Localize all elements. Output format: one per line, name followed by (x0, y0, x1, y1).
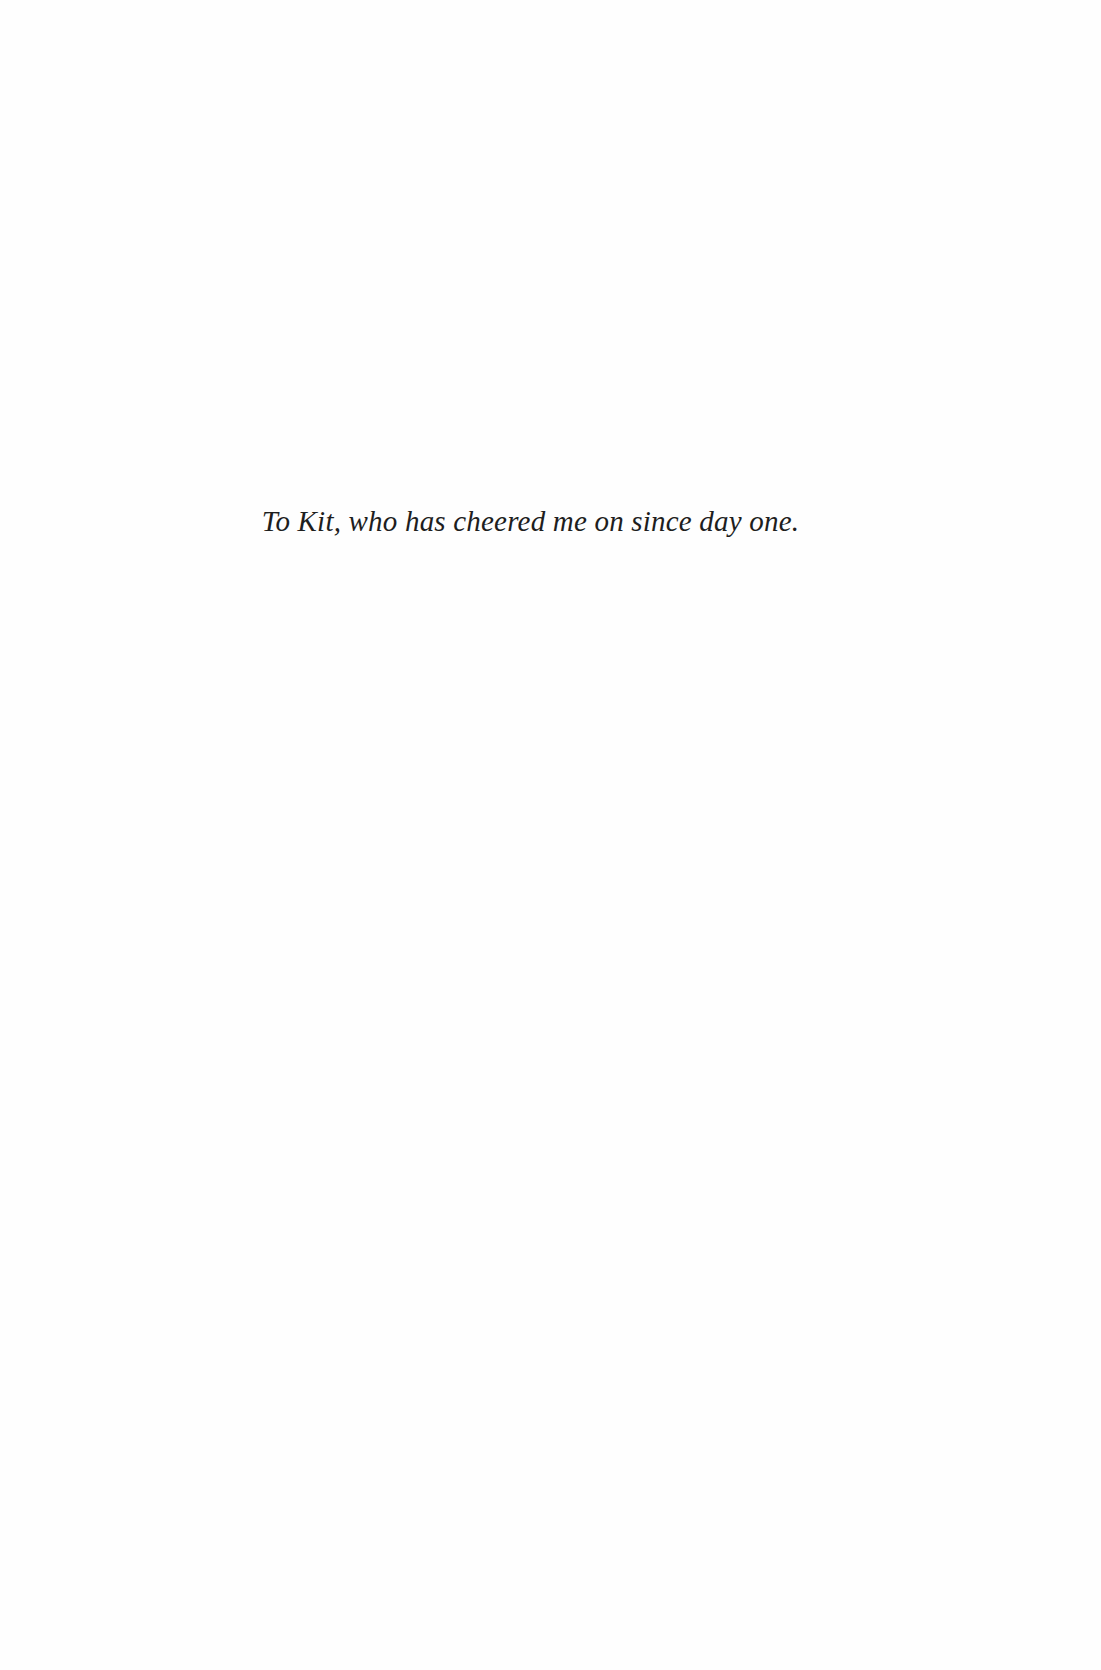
book-page: To Kit, who has cheered me on since day … (0, 0, 1101, 1670)
dedication-text: To Kit, who has cheered me on since day … (0, 501, 1101, 541)
